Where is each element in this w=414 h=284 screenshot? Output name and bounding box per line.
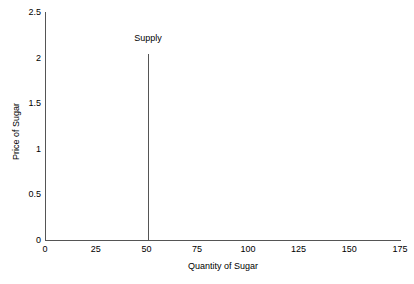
y-tick-label-0: 0 — [36, 235, 41, 246]
y-tick-label-5: 2.5 — [28, 7, 41, 18]
supply-curve-chart: 0 0.5 1 1.5 2 2.5 0 25 50 75 100 125 150… — [0, 0, 414, 284]
y-tick-label-3: 1.5 — [28, 98, 41, 109]
y-axis-title: Price of Sugar — [11, 72, 22, 192]
x-axis-title: Quantity of Sugar — [45, 261, 401, 272]
supply-curve-label: Supply — [134, 33, 162, 44]
y-tick-label-1: 0.5 — [28, 189, 41, 200]
x-tick-label-2: 50 — [141, 244, 151, 255]
x-tick-label-0: 0 — [42, 244, 47, 255]
x-tick-label-5: 125 — [291, 244, 306, 255]
x-axis-line — [45, 240, 401, 241]
y-tick-label-2: 1 — [36, 143, 41, 154]
x-tick-label-7: 175 — [392, 244, 407, 255]
x-tick-label-4: 100 — [240, 244, 255, 255]
x-tick-label-6: 150 — [342, 244, 357, 255]
x-tick-label-3: 75 — [192, 244, 202, 255]
supply-curve-line — [148, 54, 149, 240]
y-axis-line — [45, 12, 46, 241]
y-tick-label-4: 2 — [36, 52, 41, 63]
x-tick-label-1: 25 — [91, 244, 101, 255]
